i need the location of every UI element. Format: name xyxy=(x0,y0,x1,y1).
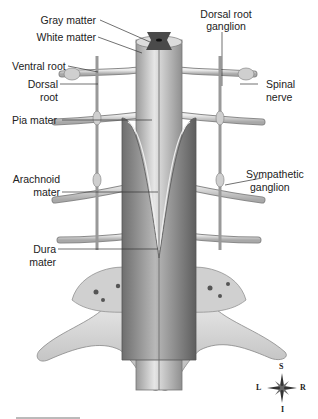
spinal-cord-diagram: Gray matter White matter Ventral root Do… xyxy=(0,0,318,419)
label-dura-2: mater xyxy=(20,256,56,268)
compass-rose-icon xyxy=(267,373,297,403)
label-white-matter: White matter xyxy=(36,31,96,43)
label-spinal-nerve-2: nerve xyxy=(266,91,292,103)
label-dorsal-root-1: Dorsal xyxy=(20,78,58,90)
compass-l: L xyxy=(256,383,261,392)
label-dorsal-root-2: root xyxy=(20,91,58,103)
compass-s: S xyxy=(279,362,283,371)
compass-i: I xyxy=(281,405,284,414)
label-arachnoid-1: Arachnoid xyxy=(4,173,60,185)
label-dura-1: Dura xyxy=(20,243,56,255)
label-pia-mater: Pia mater xyxy=(12,114,57,126)
label-drg-2: ganglion xyxy=(196,20,256,32)
label-drg-1: Dorsal root xyxy=(196,8,256,20)
label-arachnoid-2: mater xyxy=(4,186,60,198)
label-gray-matter: Gray matter xyxy=(40,14,96,26)
label-ventral-root: Ventral root xyxy=(12,60,66,72)
label-sympathetic-1: Sympathetic xyxy=(246,168,304,180)
label-sympathetic-2: ganglion xyxy=(250,181,290,193)
label-spinal-nerve-1: Spinal xyxy=(266,78,295,90)
compass-r: R xyxy=(300,383,306,392)
